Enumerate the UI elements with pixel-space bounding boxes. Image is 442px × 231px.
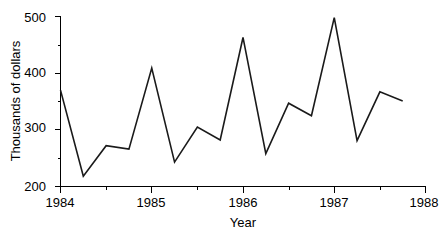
x-axis-tick-labels: 1984 1985 1986 1987 1988 xyxy=(46,195,439,210)
data-series-line xyxy=(61,18,403,177)
x-tick-label-1987: 1987 xyxy=(320,195,349,210)
y-tick-label-200: 200 xyxy=(24,179,46,194)
y-tick-label-400: 400 xyxy=(24,65,46,80)
y-tick-label-300: 300 xyxy=(24,120,46,135)
x-tick-label-1984: 1984 xyxy=(46,195,75,210)
x-tick-label-1988: 1988 xyxy=(410,195,439,210)
x-axis-title: Year xyxy=(230,215,257,230)
y-tick-label-500: 500 xyxy=(24,10,46,25)
x-tick-label-1986: 1986 xyxy=(229,195,258,210)
x-axis-ticks xyxy=(61,187,426,193)
line-chart: 500 400 300 200 xyxy=(0,0,442,231)
y-axis-tick-labels: 500 400 300 200 xyxy=(24,10,46,194)
chart-canvas: 500 400 300 200 xyxy=(0,0,442,231)
x-tick-label-1985: 1985 xyxy=(137,195,166,210)
y-axis-title: Thousands of dollars xyxy=(8,40,23,161)
